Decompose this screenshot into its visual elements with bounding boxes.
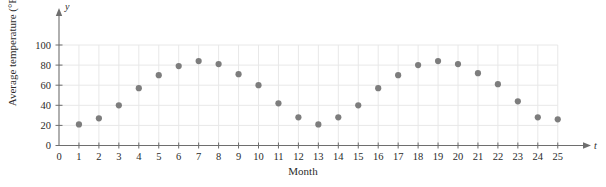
y-tick-label: 20 <box>41 120 52 131</box>
data-point <box>395 72 401 78</box>
data-point <box>295 114 301 120</box>
x-axis-tick-labels: 0123456789101112131415161718192021222324… <box>56 151 563 162</box>
x-tick-label: 11 <box>273 151 283 162</box>
data-point <box>475 70 481 76</box>
x-tick-label: 18 <box>413 151 424 162</box>
y-axis-tick-labels: 020406080100 <box>35 40 51 152</box>
x-tick-label: 2 <box>96 151 101 162</box>
axis-variable-names: yt <box>64 1 597 151</box>
y-tick-label: 100 <box>35 40 51 51</box>
x-tick-label: 21 <box>473 151 484 162</box>
data-point <box>515 98 521 104</box>
y-tick-label: 60 <box>41 80 52 91</box>
data-point <box>455 61 461 67</box>
plot-area: 0123456789101112131415161718192021222324… <box>0 0 606 187</box>
data-point <box>176 63 182 69</box>
x-tick-label: 5 <box>156 151 161 162</box>
data-point <box>415 62 421 68</box>
data-point <box>435 58 441 64</box>
x-tick-label: 7 <box>196 151 201 162</box>
x-tick-label: 25 <box>553 151 564 162</box>
x-tick-label: 20 <box>453 151 464 162</box>
x-tick-label: 13 <box>313 151 324 162</box>
x-tick-label: 14 <box>333 151 344 162</box>
x-tick-label: 9 <box>236 151 241 162</box>
x-axis-variable-label: t <box>594 140 597 151</box>
y-tick-label: 0 <box>46 140 51 151</box>
x-tick-label: 12 <box>293 151 304 162</box>
y-axis-variable-label: y <box>64 1 70 12</box>
data-point <box>96 115 102 121</box>
data-point <box>495 81 501 87</box>
axis-lines <box>56 8 591 149</box>
x-tick-label: 0 <box>56 151 61 162</box>
x-axis-title: Month <box>0 165 606 177</box>
data-point <box>535 114 541 120</box>
data-point <box>555 116 561 122</box>
data-point <box>275 100 281 106</box>
data-point <box>355 102 361 108</box>
scatter-plot-figure: Average temperature (°F) 012345678910111… <box>0 0 606 187</box>
x-tick-label: 8 <box>216 151 221 162</box>
x-tick-label: 6 <box>176 151 181 162</box>
data-point <box>136 85 142 91</box>
gridlines <box>59 45 558 146</box>
x-tick-label: 17 <box>393 151 404 162</box>
x-tick-label: 16 <box>373 151 384 162</box>
x-tick-label: 3 <box>116 151 121 162</box>
x-tick-label: 4 <box>136 151 142 162</box>
data-point <box>235 71 241 77</box>
data-point <box>116 102 122 108</box>
x-tick-label: 1 <box>76 151 81 162</box>
data-point <box>315 121 321 127</box>
y-tick-label: 80 <box>41 60 52 71</box>
x-tick-label: 23 <box>513 151 524 162</box>
x-tick-label: 15 <box>353 151 364 162</box>
data-point <box>335 114 341 120</box>
y-tick-label: 40 <box>41 100 52 111</box>
x-tick-label: 22 <box>493 151 504 162</box>
data-point <box>255 82 261 88</box>
x-axis-arrowhead <box>583 142 591 148</box>
y-axis-arrowhead <box>56 8 62 16</box>
data-point <box>216 61 222 67</box>
x-tick-label: 10 <box>253 151 264 162</box>
data-point <box>375 85 381 91</box>
data-point <box>156 72 162 78</box>
data-point <box>76 121 82 127</box>
x-tick-label: 19 <box>433 151 444 162</box>
data-point <box>196 58 202 64</box>
x-tick-label: 24 <box>533 151 544 162</box>
